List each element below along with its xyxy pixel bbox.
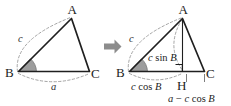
vertex-label-h-right: H <box>177 78 186 93</box>
geometry-figure: A B C c a <box>0 0 231 106</box>
vertex-label-b-right: B <box>116 65 125 80</box>
vertex-label-c-left: C <box>91 66 100 81</box>
expr-ccosb-func: cos <box>136 81 155 92</box>
expr-csinb-func: sin <box>153 52 171 63</box>
side-label-a-left: a <box>51 81 56 92</box>
dashed-arc-c-left <box>17 18 70 72</box>
expr-amccb-func: cos <box>189 93 208 104</box>
expression-c-cos-b: c cos B <box>131 81 162 92</box>
dashed-arc-ccosb-right <box>130 74 182 80</box>
vertex-label-a-left: A <box>68 2 78 17</box>
expression-c-sin-b: c sin B <box>148 52 177 63</box>
expr-ccosb-var2: B <box>155 81 162 92</box>
left-triangle-group: A B C c a <box>5 2 100 92</box>
diagram-canvas: A B C c a <box>0 0 231 106</box>
expr-csinb-var2: B <box>170 52 177 63</box>
side-label-c-left: c <box>18 33 23 44</box>
vertex-label-c-right: C <box>206 66 215 81</box>
arrow-right-icon <box>104 40 122 54</box>
expression-a-minus-c-cos-b: a − c cos B <box>168 93 215 104</box>
expr-amccb-op: − <box>173 93 184 104</box>
vertex-label-b-left: B <box>5 65 14 80</box>
expr-amccb-var3: B <box>208 93 215 104</box>
vertex-label-a-right: A <box>179 2 189 17</box>
right-triangle-group: A B C H c c sin B c cos B a − c cos B <box>116 2 215 104</box>
side-label-c-right: c <box>129 33 134 44</box>
